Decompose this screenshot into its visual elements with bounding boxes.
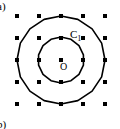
lattice-point (103, 36, 107, 40)
lattice-point (37, 102, 41, 106)
lattice-point (103, 102, 107, 106)
lattice-point (81, 36, 85, 40)
lattice-point (103, 80, 107, 84)
lattice-point (15, 36, 19, 40)
inner-curve-label-subscript: 1 (77, 34, 81, 43)
origin-label: O (60, 62, 67, 72)
lattice-point (103, 14, 107, 18)
lattice-point (81, 80, 85, 84)
lattice-point (37, 14, 41, 18)
part-label-a: a) (0, 1, 6, 12)
figure-panel: a) b) C1 O (0, 0, 120, 129)
inner-curve-label: C1 (70, 29, 81, 43)
part-label-b: b) (0, 119, 6, 129)
lattice-point (15, 14, 19, 18)
lattice-point (15, 80, 19, 84)
lattice-point (81, 14, 85, 18)
lattice-point (37, 36, 41, 40)
lattice-point (37, 80, 41, 84)
lattice-point (81, 102, 85, 106)
lattice-point (15, 102, 19, 106)
